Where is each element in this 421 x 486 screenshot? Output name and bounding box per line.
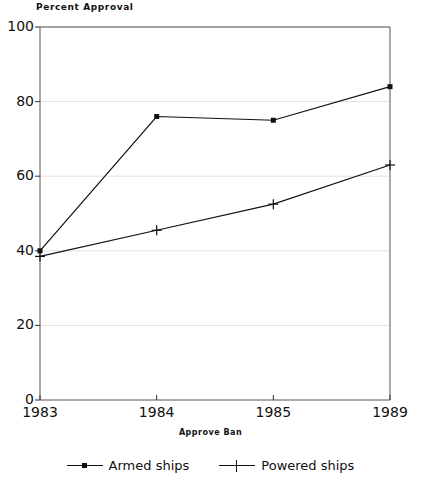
x-tick-label: 1983 bbox=[10, 404, 70, 420]
dot-marker-icon bbox=[67, 459, 103, 473]
series-line-1 bbox=[40, 87, 390, 251]
plus-marker-icon bbox=[219, 459, 255, 473]
x-axis-title: Approve Ban bbox=[0, 428, 421, 437]
chart-legend: Armed shipsPowered ships bbox=[0, 458, 421, 473]
series-line-2 bbox=[40, 165, 390, 256]
legend-entry[interactable]: Powered ships bbox=[219, 458, 354, 473]
x-tick-label: 1985 bbox=[243, 404, 303, 420]
y-tick-label: 60 bbox=[0, 167, 34, 183]
legend-entry[interactable]: Armed ships bbox=[67, 458, 190, 473]
chart-figure: Percent Approval 020406080100 1983198419… bbox=[0, 0, 421, 486]
legend-label: Powered ships bbox=[261, 458, 354, 473]
y-tick-label: 80 bbox=[0, 93, 34, 109]
y-tick-label: 20 bbox=[0, 316, 34, 332]
y-tick-label: 100 bbox=[0, 18, 34, 34]
dot-marker-icon bbox=[154, 114, 159, 119]
dot-marker-icon bbox=[271, 118, 276, 123]
x-tick-label: 1984 bbox=[127, 404, 187, 420]
legend-label: Armed ships bbox=[109, 458, 190, 473]
y-tick-label: 40 bbox=[0, 242, 34, 258]
dot-marker-icon bbox=[388, 84, 393, 89]
x-tick-label: 1989 bbox=[360, 404, 420, 420]
